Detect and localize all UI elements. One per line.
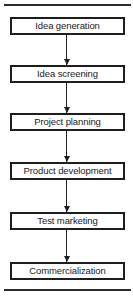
step-label: Test marketing [37, 216, 97, 226]
step-idea-screening: Idea screening [10, 65, 125, 83]
step-product-development: Product development [10, 162, 125, 180]
arrow-5-to-6 [66, 230, 67, 262]
step-test-marketing: Test marketing [10, 212, 125, 230]
step-label: Idea generation [35, 21, 100, 31]
step-commercialization: Commercialization [10, 262, 125, 280]
bottom-rule [4, 289, 131, 291]
step-label: Idea screening [37, 69, 98, 79]
step-label: Product development [24, 166, 112, 176]
top-rule [4, 4, 131, 6]
step-label: Commercialization [29, 266, 105, 276]
step-label: Project planning [34, 117, 101, 127]
arrow-3-to-4 [66, 131, 67, 162]
step-project-planning: Project planning [10, 113, 125, 131]
step-idea-generation: Idea generation [10, 17, 125, 35]
arrow-4-to-5 [66, 180, 67, 212]
arrow-2-to-3 [66, 83, 67, 113]
arrow-1-to-2 [66, 35, 67, 65]
